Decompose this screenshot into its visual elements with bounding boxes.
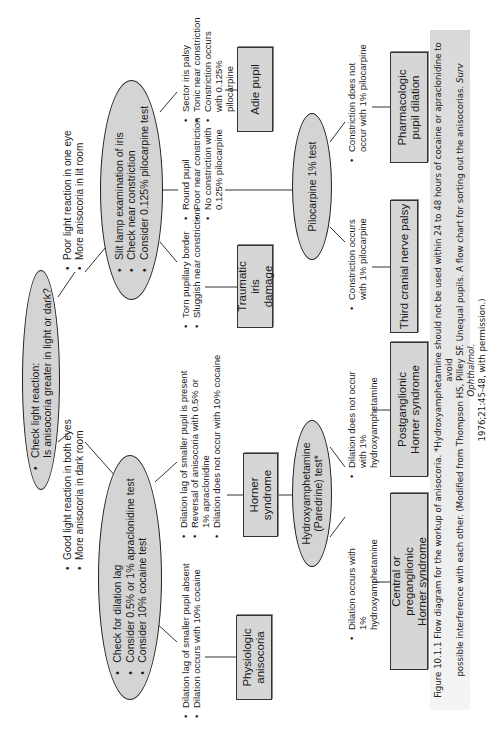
figure-caption: Figure 10.1.1 Flow diagram for the worku… <box>430 30 470 710</box>
hydroxyamphetamine-test-node: Hydroxyamphetamine(Paredrine) test* <box>292 420 332 567</box>
result-label: Adie pupil <box>249 64 262 115</box>
result-label: Pharmacologic pupil dilation <box>396 69 422 146</box>
hydroxy-line-2: (Paredrine) test* <box>312 455 324 531</box>
result-label: Postganglionic Horner syndrome <box>396 365 422 454</box>
criterion: Sluggish near constriction <box>191 209 202 330</box>
test-step: Consider 10% cocaine test <box>136 478 149 676</box>
criterion: Dilation does not occur with 1% hydroxya… <box>346 360 379 480</box>
pilocarpine-label: Pilocarpine 1% test <box>306 142 319 232</box>
criterion: Dilation lag of smaller pupil absent <box>180 563 191 720</box>
result-label: Physiologic anisocoria <box>241 626 267 689</box>
start-line-1: Check light reaction: <box>29 363 41 458</box>
horner-criteria: Dilation lag of smaller pupil is present… <box>178 365 222 540</box>
criterion: Torn pupillary border <box>180 209 191 330</box>
adie-criteria: Sector iris palsy Tonic near constrictio… <box>180 12 235 124</box>
third-nerve-criteria: Constriction occurs with 1% pilocarpine <box>346 212 368 312</box>
caption-line-2: possible interference with each other. (… <box>455 86 465 677</box>
test-step: Consider 0.125% pilocarpine test <box>138 106 151 274</box>
caption-line-1: Figure 10.1.1 Flow diagram for the worku… <box>433 42 454 698</box>
criterion: Constriction does not occur with 1% pilo… <box>346 44 368 164</box>
test-step: Check for dilation lag <box>111 478 124 676</box>
branch-label-light: Poor light reaction in one eye More anis… <box>62 130 86 272</box>
pilocarpine-test-node: Pilocarpine 1% test <box>292 113 332 260</box>
result-central-preganglionic-horner: Central or preganglionic Horner syndrome <box>390 493 428 670</box>
physiologic-criteria: Dilation lag of smaller pupil absent Dil… <box>180 563 202 720</box>
slit-lamp-test-node: Slit lamp examination of iris Check near… <box>100 80 163 300</box>
branch-label-dark: Good light reaction in both eyes More an… <box>62 419 86 572</box>
test-step: Consider 0.5% or 1% apraclonidine test <box>124 478 137 676</box>
result-traumatic-iris-damage: Traumatic iris damage <box>237 245 273 328</box>
traumatic-criteria: Torn pupillary border Sluggish near cons… <box>180 209 202 330</box>
result-horner-syndrome: Horner syndrome <box>243 453 278 537</box>
criterion: Round pupil <box>180 122 191 222</box>
criterion: Dilation does not occur with 10% cocaine <box>211 365 222 540</box>
result-postganglionic-horner: Postganglionic Horner syndrome <box>390 342 428 477</box>
criterion: Dilation lag of smaller pupil is present <box>178 365 189 540</box>
criterion: Reversal of anisocoria with 0.5% or 1% a… <box>189 365 211 540</box>
test-step: Check near constriction <box>125 106 138 274</box>
branch-light-criterion: Poor light reaction in one eye <box>62 130 74 272</box>
branch-dark-criterion: Good light reaction in both eyes <box>62 419 74 572</box>
criterion: Constriction occurs with 1% pilocarpine <box>346 212 368 312</box>
central-criteria: Dilation occurs with 1% hydroxyamphetami… <box>346 532 379 642</box>
result-pharmacologic-dilation: Pharmacologic pupil dilation <box>390 52 428 163</box>
branch-dark-criterion: More anisocoria in dark room <box>74 419 86 572</box>
dilation-lag-test-node: Check for dilation lag Consider 0.5% or … <box>98 455 162 700</box>
criterion: Dilation occurs with 1% hydroxyamphetami… <box>346 532 379 642</box>
result-label: Horner syndrome <box>248 470 274 520</box>
criterion: Sector iris palsy <box>180 12 191 124</box>
criterion: Dilation occurs with 10% cocaine <box>191 563 202 720</box>
result-third-cranial-nerve-palsy: Third cranial nerve palsy <box>390 200 418 333</box>
branch-light-criterion: More anisocoria in lit room <box>74 130 86 272</box>
test-step: Slit lamp examination of iris <box>113 106 126 274</box>
result-label: Central or preganglionic Horner syndrome <box>390 534 429 629</box>
criterion: Tonic near constriction <box>191 12 202 124</box>
start-line-2: Is anisocoria greater in light or dark? <box>41 288 53 458</box>
result-label: Third cranial nerve palsy <box>398 204 411 329</box>
postganglionic-criteria: Dilation does not occur with 1% hydroxya… <box>346 360 379 480</box>
result-physiologic-anisocoria: Physiologic anisocoria <box>236 615 272 700</box>
criterion: No constriction with 0.125% pilocarpine <box>202 122 224 222</box>
start-node-check-light-reaction: Check light reaction:Is anisocoria great… <box>22 270 60 490</box>
result-label: Traumatic iris damage <box>236 260 275 313</box>
criterion: Constriction occurs with 0.125% pilocarp… <box>202 12 235 124</box>
result-adie-pupil: Adie pupil <box>237 47 273 132</box>
pharmacologic-criteria: Constriction does not occur with 1% pilo… <box>346 44 368 164</box>
caption-line-3: 1976;21:45-48, with permission.) <box>477 299 487 442</box>
round-pupil-criteria: Round pupil Poor near constriction No co… <box>180 122 224 222</box>
criterion: Poor near constriction <box>191 122 202 222</box>
hydroxy-line-1: Hydroxyamphetamine <box>300 442 312 544</box>
